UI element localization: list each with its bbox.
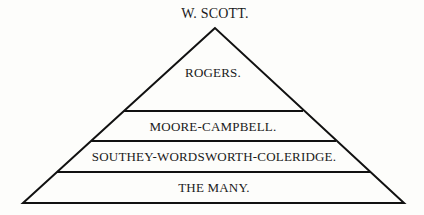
tier-label-rogers: ROGERS. xyxy=(185,65,241,81)
apex-label: W. SCOTT. xyxy=(181,6,249,22)
tier-label-moore-campbell: MOORE-CAMPBELL. xyxy=(150,119,277,135)
tier-label-the-many: THE MANY. xyxy=(178,180,250,196)
tier-label-southey-wordsworth-coleridge: SOUTHEY-WORDSWORTH-COLERIDGE. xyxy=(92,149,336,165)
pyramid-outline xyxy=(23,28,404,203)
